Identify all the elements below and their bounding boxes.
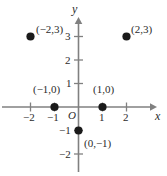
y-tick-label-neg2: −2 bbox=[59, 149, 71, 160]
y-axis-arrowhead bbox=[75, 17, 83, 24]
y-tick-label-pos3: 3 bbox=[65, 31, 71, 42]
y-tick-label-pos2: 2 bbox=[65, 55, 71, 66]
data-point-neg1-0 bbox=[50, 103, 58, 111]
data-point-0-neg1 bbox=[74, 126, 82, 134]
x-tick-label-neg2: −2 bbox=[23, 112, 35, 123]
point-label-neg2-3: (−2,3) bbox=[36, 24, 63, 35]
x-tick-label-pos2: 2 bbox=[123, 112, 129, 123]
y-axis-label: y bbox=[72, 3, 77, 15]
data-point-neg2-3 bbox=[26, 32, 34, 40]
data-point-1-0 bbox=[98, 103, 106, 111]
coordinate-plane-figure: x y O −2 −1 1 2 3 2 1 −1 −2 (−2,3) (2,3)… bbox=[0, 0, 167, 176]
x-tick-label-pos1: 1 bbox=[99, 112, 105, 123]
y-tick-label-neg1: −1 bbox=[59, 125, 71, 136]
x-axis-label: x bbox=[155, 110, 160, 122]
y-tick-label-pos1: 1 bbox=[66, 78, 72, 89]
point-label-2-3: (2,3) bbox=[131, 24, 152, 35]
point-label-0-neg1: (0,−1) bbox=[84, 138, 111, 149]
point-label-1-0: (1,0) bbox=[93, 84, 114, 95]
data-point-2-3 bbox=[122, 32, 130, 40]
point-label-neg1-0: (−1,0) bbox=[33, 84, 60, 95]
x-tick-label-neg1: −1 bbox=[47, 112, 59, 123]
origin-label: O bbox=[68, 110, 76, 121]
